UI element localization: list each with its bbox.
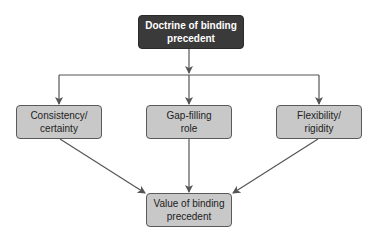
node-label-line2: certainty xyxy=(30,122,87,135)
node-flexibility-rigidity: Flexibility/ rigidity xyxy=(276,105,362,139)
node-consistency-certainty: Consistency/ certainty xyxy=(16,105,102,139)
node-value-of-binding-precedent: Value of binding precedent xyxy=(146,193,232,227)
node-doctrine-of-binding-precedent: Doctrine of binding precedent xyxy=(138,15,244,49)
node-label-line2: rigidity xyxy=(297,122,341,135)
node-label-line1: Doctrine of binding xyxy=(145,19,237,32)
node-label-line1: Value of binding xyxy=(154,197,225,210)
node-label-line2: precedent xyxy=(145,32,237,45)
arrow-consistency-to-value xyxy=(60,139,145,193)
arrow-flexibility-to-value xyxy=(233,139,318,193)
node-label-line1: Flexibility/ xyxy=(297,109,341,122)
node-gap-filling-role: Gap-filling role xyxy=(146,105,232,139)
node-label-line1: Gap-filling xyxy=(166,109,211,122)
node-label-line2: precedent xyxy=(154,210,225,223)
node-label-line1: Consistency/ xyxy=(30,109,87,122)
node-label-line2: role xyxy=(166,122,211,135)
